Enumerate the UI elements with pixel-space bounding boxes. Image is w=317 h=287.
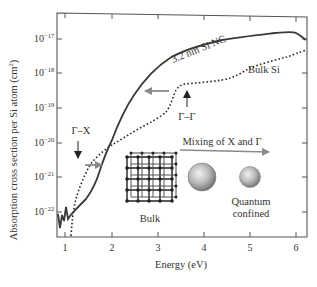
- label-si-nc: 3.2 nm Si NC: [170, 33, 228, 65]
- y-tick-1e-21: 10−21: [34, 170, 54, 182]
- x-axis-title: Energy (eV): [155, 259, 207, 271]
- y-axis-title: Absorption cross section per Si atom (cm…: [7, 59, 20, 240]
- y-tick-1e-18: 10−18: [34, 66, 54, 78]
- mixing-arrow: [180, 150, 269, 152]
- label-gamma-x: Γ–X: [72, 125, 91, 136]
- x-tick-4: 4: [202, 242, 207, 253]
- label-quantum: Quantum: [231, 196, 270, 207]
- absorption-chart: 1 2 3 4 5 6 10−17 10−18 10−19 10−20 10−2…: [0, 0, 317, 287]
- x-tick-labels: 1 2 3 4 5 6: [63, 242, 299, 253]
- y-tick-1e-22: 10−22: [34, 205, 54, 217]
- y-tick-1e-17: 10−17: [34, 32, 55, 44]
- label-confined: confined: [233, 208, 270, 219]
- x-tick-6: 6: [294, 242, 299, 253]
- x-tick-1: 1: [63, 242, 68, 253]
- label-bulk: Bulk: [140, 213, 161, 224]
- bulk-lattice-icon: [125, 152, 177, 203]
- y-tick-1e-20: 10−20: [34, 136, 54, 148]
- label-gamma-gamma: Γ–Γ: [178, 111, 195, 122]
- x-tick-3: 3: [156, 242, 161, 253]
- x-tick-5: 5: [248, 242, 253, 253]
- y-tick-1e-19: 10−19: [34, 101, 54, 113]
- large-nanocrystal-sphere-icon: [188, 163, 216, 191]
- label-mixing: Mixing of X and Γ: [183, 136, 262, 147]
- y-tick-labels: 10−17 10−18 10−19 10−20 10−21 10−22: [34, 32, 55, 217]
- x-tick-2: 2: [110, 242, 115, 253]
- label-bulk-si: Bulk Si: [248, 64, 280, 75]
- small-nanocrystal-sphere-icon: [240, 167, 261, 188]
